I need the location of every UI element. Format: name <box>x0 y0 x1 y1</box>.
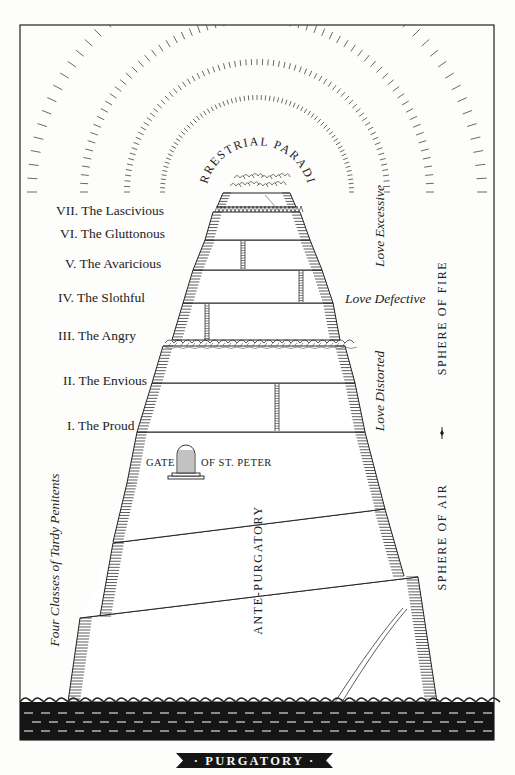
sphere-of-fire-label: SPHERE OF FIRE <box>435 261 449 375</box>
summit-label: TERRESTRIAL PARADISE <box>0 0 319 186</box>
sphere-divider-marker <box>440 427 444 439</box>
st-peter-label: OF ST. PETER <box>201 457 272 468</box>
sphere-of-air-label: SPHERE OF AIR <box>435 484 449 591</box>
svg-text:· PURGATORY ·: · PURGATORY · <box>194 754 316 768</box>
love-distorted-label: Love Distorted <box>372 350 387 432</box>
terrace-label-iv: IV. The Slothful <box>58 290 145 305</box>
terrace-label-vii: VII. The Lascivious <box>56 203 164 218</box>
terrace-label-ii: II. The Envious <box>63 373 147 388</box>
love-defective-label: Love Defective <box>344 291 426 306</box>
celestial-arcs <box>27 0 487 192</box>
purgatory-diagram: TERRESTRIAL PARADISE VII. The Lascivious… <box>0 0 515 775</box>
gate-label: GATE <box>146 457 175 468</box>
ante-purgatory-label: ANTE-PURGATORY <box>251 505 265 635</box>
terrace-label-v: V. The Avaricious <box>65 256 161 271</box>
tardy-penitents-label: Four Classes of Tardy Penitents <box>47 473 62 647</box>
terrace-label-vi: VI. The Gluttonous <box>60 226 165 241</box>
terrace-label-i: I. The Proud <box>67 418 135 433</box>
title-banner: · PURGATORY · <box>176 753 333 768</box>
terrace-label-iii: III. The Angry <box>58 328 136 343</box>
ocean <box>20 698 500 740</box>
love-excessive-label: Love Excessive <box>372 185 387 268</box>
